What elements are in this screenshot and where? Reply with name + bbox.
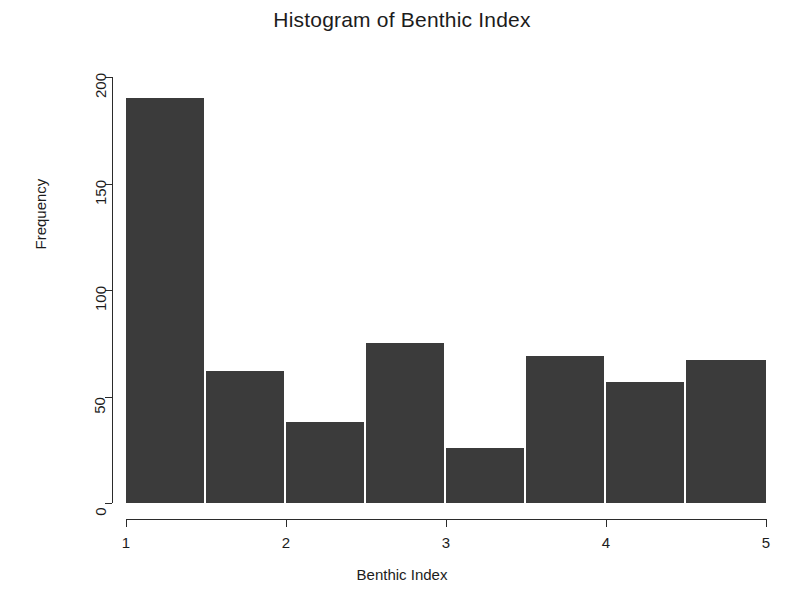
chart-title: Histogram of Benthic Index — [0, 8, 804, 32]
histogram-bar — [366, 343, 446, 503]
x-axis-tick — [126, 519, 127, 527]
x-axis-tick-label: 2 — [266, 534, 306, 551]
histogram-bar — [206, 371, 286, 503]
x-axis-tick-label: 1 — [106, 534, 146, 551]
x-axis-tick-label: 5 — [746, 534, 786, 551]
x-axis-tick — [446, 519, 447, 527]
y-axis-tick-label: 100 — [92, 286, 109, 311]
x-axis-tick-label: 4 — [586, 534, 626, 551]
x-axis-tick — [606, 519, 607, 527]
x-axis-tick-label: 3 — [426, 534, 466, 551]
x-axis-tick — [766, 519, 767, 527]
y-axis-tick-label: 150 — [92, 179, 109, 204]
histogram-bar — [126, 98, 206, 503]
x-axis-tick — [286, 519, 287, 527]
y-axis-tick — [105, 503, 112, 504]
y-axis-tick-label: 0 — [92, 507, 109, 515]
histogram-bar — [606, 382, 686, 503]
histogram-bar — [446, 448, 526, 503]
histogram-figure: Histogram of Benthic Index Frequency 050… — [0, 0, 804, 610]
histogram-bar — [686, 360, 766, 503]
x-axis-title: Benthic Index — [0, 566, 804, 583]
y-axis-tick-label: 200 — [92, 73, 109, 98]
histogram-bar — [526, 356, 606, 503]
y-axis-line — [112, 77, 113, 503]
histogram-bar — [286, 422, 366, 503]
plot-area — [126, 77, 766, 503]
y-axis-tick-label: 50 — [92, 397, 109, 414]
y-axis-title: Frequency — [32, 230, 49, 250]
